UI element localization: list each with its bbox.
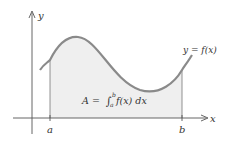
area-formula-lhs: A = xyxy=(81,95,100,106)
integral-lower-bound: a xyxy=(110,101,114,108)
curve-label: y = f(x) xyxy=(182,45,217,55)
tick-label-a: a xyxy=(47,124,53,135)
x-axis-label: x xyxy=(210,113,216,124)
tick-label-b: b xyxy=(179,124,185,135)
area-under-curve-diagram: x y a b y = f(x) A = ∫ b a f(x) dx xyxy=(0,0,230,143)
integrand: f(x) dx xyxy=(115,95,147,106)
y-axis-label: y xyxy=(37,10,44,21)
